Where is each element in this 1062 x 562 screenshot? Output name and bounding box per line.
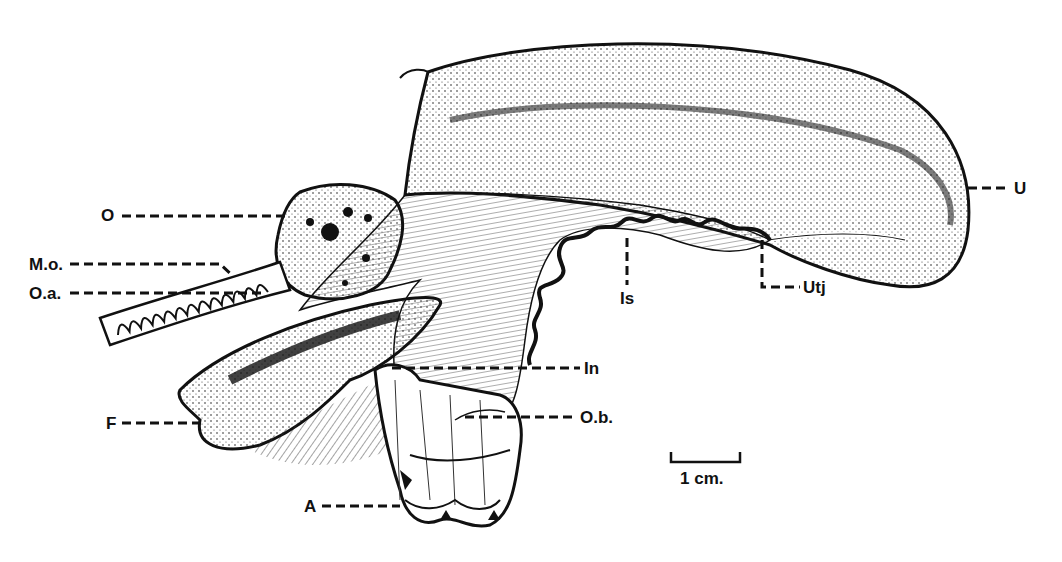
label-is: Is [620, 290, 634, 307]
ovary-shape [276, 184, 403, 298]
label-fimbria: F [106, 415, 116, 432]
label-a: A [304, 498, 316, 515]
label-mo: M.o. [29, 256, 63, 273]
label-in: In [584, 360, 599, 377]
scale-bar-label: 1 cm. [680, 470, 723, 487]
label-ovary: O [101, 207, 114, 224]
oviduct-coil-shape [100, 262, 290, 345]
scale-bar-shape [671, 452, 740, 462]
label-utj: Utj [803, 279, 826, 296]
label-ob: O.b. [580, 409, 613, 426]
label-oa: O.a. [29, 285, 61, 302]
label-uterus: U [1014, 180, 1026, 197]
anatomical-drawing [0, 0, 1062, 562]
